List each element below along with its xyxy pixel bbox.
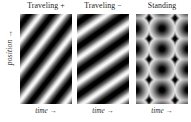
y-axis-label: position → (5, 13, 14, 83)
panel-traveling-minus: Traveling − time → (77, 0, 129, 122)
plot-area-traveling-plus (20, 14, 72, 104)
standing-blob-lattice-b (136, 14, 188, 104)
panel-title: Standing (148, 1, 177, 10)
panel-title: Traveling + (27, 1, 64, 10)
wave-figure: position → Traveling + time → Traveling … (0, 0, 191, 122)
panel-standing: Standing time → (136, 0, 188, 122)
grating-pattern (20, 14, 72, 104)
x-axis-label: time → (92, 107, 113, 115)
panel-traveling-plus: Traveling + time → (20, 0, 72, 122)
x-axis-label: time → (35, 107, 56, 115)
panel-title: Traveling − (84, 1, 121, 10)
plot-area-standing (136, 14, 188, 104)
grating-pattern (77, 14, 129, 104)
x-axis-label: time → (151, 107, 172, 115)
plot-area-traveling-minus (77, 14, 129, 104)
